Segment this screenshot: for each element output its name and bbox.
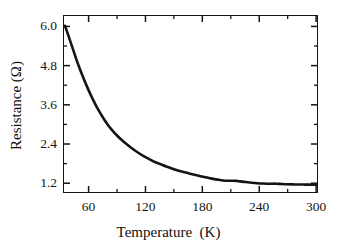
y-tick-label: 3.6: [40, 97, 57, 113]
y-axis-title-wrapper: Resistance (Ω): [4, 0, 30, 210]
chart-figure: 60120180240300 1.22.43.64.86.0 Resistanc…: [0, 0, 337, 250]
plot-area-frame: [63, 15, 318, 193]
x-tick-label: 240: [249, 199, 269, 215]
x-tick-label: 180: [192, 199, 212, 215]
y-tick-label: 1.2: [40, 175, 57, 191]
y-tick-label: 4.8: [40, 58, 57, 74]
x-axis-title: Temperature (K): [0, 224, 337, 241]
y-tick-label: 2.4: [40, 136, 57, 152]
y-tick-label: 6.0: [40, 18, 57, 34]
x-tick-label: 60: [82, 199, 96, 215]
y-axis-title: Resistance (Ω): [9, 60, 26, 149]
x-tick-label: 300: [306, 199, 326, 215]
x-tick-label: 120: [135, 199, 155, 215]
